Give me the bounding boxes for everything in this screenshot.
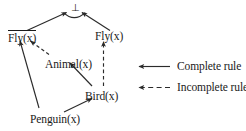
edge-penguin-to-notfly bbox=[20, 41, 39, 108]
node-label-bird: Bird(x) bbox=[85, 90, 118, 102]
node-label-penguin: Penguin(x) bbox=[30, 113, 80, 125]
inference-diagram: ⊥ Fly(x) Fly(x) Animal(x) Bird(x) Pengui… bbox=[0, 0, 246, 131]
legend-label-incomplete: Incomplete rule bbox=[177, 81, 246, 93]
edge-fly-to-apex bbox=[82, 13, 110, 31]
edge-notfly-to-apex bbox=[27, 13, 67, 31]
node-label-not-fly: Fly(x) bbox=[8, 30, 36, 44]
conjunction-arc bbox=[64, 13, 86, 18]
apex-falsum-symbol: ⊥ bbox=[71, 3, 80, 13]
legend-label-complete: Complete rule bbox=[177, 60, 241, 72]
node-label-animal: Animal(x) bbox=[45, 58, 92, 70]
node-label-fly: Fly(x) bbox=[95, 30, 123, 42]
